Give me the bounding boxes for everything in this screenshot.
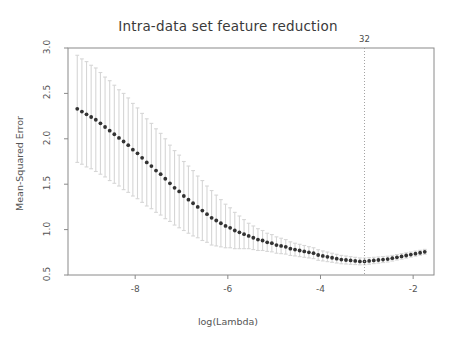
y-tick-label: 3.0 [42,34,52,60]
y-tick-label: 2.5 [42,79,52,105]
data-point [404,254,408,258]
data-point [122,140,126,144]
plot-border [68,48,434,275]
data-point [302,249,306,253]
data-point [242,232,246,236]
plot-frame [68,48,434,275]
data-point [418,251,422,255]
x-tick-label: -4 [307,284,333,294]
data-point [265,240,269,244]
data-point [339,258,343,262]
data-point [117,136,121,140]
data-point [372,259,376,263]
data-point [270,241,274,245]
data-point [126,143,130,147]
data-point [400,254,404,258]
data-point [200,209,204,213]
data-point [168,181,172,185]
data-point [149,164,153,168]
y-axis-title: Mean-Squared Error [14,104,25,224]
data-point [224,224,228,228]
data-point [75,107,79,111]
data-point [94,118,98,122]
data-point [288,247,292,251]
data-point [344,258,348,262]
data-point [284,245,288,249]
data-point [214,219,218,223]
data-point [275,243,279,247]
chart-figure: Intra-data set feature reduction Mean-Sq… [0,0,456,344]
data-point [330,256,334,260]
data-point [414,252,418,256]
x-tick-label: -6 [215,284,241,294]
data-point [256,238,260,242]
data-point [238,230,242,234]
data-point [154,169,158,173]
data-point [409,253,413,257]
data-point [159,172,163,176]
data-point [89,115,93,119]
data-point [145,161,149,165]
data-point [293,248,297,252]
data-point [353,259,357,263]
data-point [210,216,214,220]
data-point [85,112,89,116]
selected-lambda-label: 32 [350,34,380,44]
data-point [233,229,237,233]
data-point [228,226,232,230]
data-point [377,258,381,262]
data-point [108,129,112,133]
data-point [196,205,200,209]
data-point [312,251,316,255]
data-point [321,254,325,258]
data-point [316,253,320,257]
data-point [173,186,177,190]
x-tick-label: -8 [122,284,148,294]
data-point [395,255,399,259]
y-tick-label: 1.5 [42,170,52,196]
data-point [335,257,339,261]
data-point [367,259,371,263]
data-point [261,239,265,243]
data-point [103,125,107,129]
data-point [177,190,181,194]
data-point [247,234,251,238]
data-point [187,198,191,202]
data-point [182,194,186,198]
data-point [219,221,223,225]
data-point [390,256,394,260]
data-point [251,236,255,240]
y-tick-label: 1.0 [42,216,52,242]
data-point [279,244,283,248]
errorbar-group [75,55,426,265]
data-point [381,258,385,262]
data-point [99,121,103,125]
data-point [298,249,302,253]
data-point [140,156,144,160]
y-tick-label: 2.0 [42,125,52,151]
data-point [191,201,195,205]
data-point [112,132,116,136]
data-point [131,148,135,152]
x-axis-title: log(Lambda) [0,316,456,327]
axis-ticks [64,48,413,279]
data-point [386,257,390,261]
data-point [163,177,167,181]
data-point [136,151,140,155]
data-point [358,259,362,263]
data-point [80,110,84,114]
data-point [307,250,311,254]
data-point [205,212,209,216]
data-point [326,255,330,259]
data-point [423,250,427,254]
x-tick-label: -2 [400,284,426,294]
y-tick-label: 0.5 [42,261,52,287]
data-point [349,259,353,263]
